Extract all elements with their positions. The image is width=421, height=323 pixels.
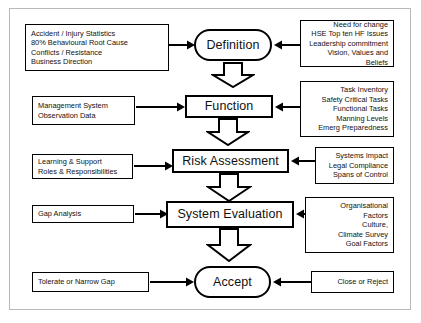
function-right-input-text: Task Inventory Safety Critical Tasks Fun…	[306, 85, 388, 132]
definition-left-input-text: Accident / Injury Statistics 80% Behavio…	[31, 29, 163, 67]
stage-accept[interactable]: Accept	[194, 266, 271, 298]
arrow-right-to-definition	[272, 39, 300, 51]
stage-system-evaluation[interactable]: System Evaluation	[166, 201, 294, 228]
stage-function-label: Function	[205, 100, 254, 113]
flow-arrow-system-evaluation-to-accept	[206, 228, 252, 262]
arrow-left-to-system-evaluation	[135, 208, 169, 220]
risk-assessment-left-input-text: Learning & Support Roles & Responsibilit…	[38, 157, 127, 176]
stage-system-evaluation-label: System Evaluation	[177, 208, 282, 221]
stage-definition[interactable]: Definition	[194, 29, 272, 61]
arrow-left-to-accept	[150, 276, 195, 288]
system-evaluation-left-input-box: Gap Analysis	[32, 205, 134, 223]
stage-accept-label: Accept	[213, 275, 252, 289]
flow-arrow-function-to-risk-assessment	[206, 118, 250, 146]
arrow-right-to-function	[273, 101, 301, 113]
accept-left-input-text: Tolerate or Narrow Gap	[38, 277, 143, 286]
flow-arrow-risk-assessment-to-system-evaluation	[206, 173, 252, 202]
system-evaluation-right-input-text: Organisational Factors Culture, Climate …	[311, 201, 388, 248]
stage-function[interactable]: Function	[185, 95, 273, 118]
definition-right-input-text: Need for change HSE Top ten HF Issues Le…	[306, 20, 388, 67]
arrow-left-to-definition	[169, 39, 196, 51]
flow-arrow-definition-to-function	[211, 62, 255, 88]
arrow-right-to-risk-assessment	[289, 155, 317, 167]
risk-assessment-right-input-box: Systems Impact Legal Compliance Spans of…	[315, 147, 394, 184]
diagram-canvas: Accident / Injury Statistics 80% Behavio…	[0, 0, 421, 323]
arrow-left-to-risk-assessment	[134, 160, 174, 172]
stage-risk-assessment[interactable]: Risk Assessment	[172, 149, 289, 173]
risk-assessment-right-input-text: Systems Impact Legal Compliance Spans of…	[321, 151, 388, 179]
system-evaluation-left-input-text: Gap Analysis	[38, 209, 128, 218]
accept-right-input-box: Close or Reject	[311, 271, 394, 293]
stage-risk-assessment-label: Risk Assessment	[182, 155, 279, 168]
system-evaluation-right-input-box: Organisational Factors Culture, Climate …	[305, 197, 394, 253]
accept-right-input-text: Close or Reject	[317, 277, 388, 286]
function-left-input-box: Management System Observation Data	[32, 96, 135, 125]
accept-left-input-box: Tolerate or Narrow Gap	[32, 272, 149, 292]
function-left-input-text: Management System Observation Data	[38, 101, 129, 120]
stage-definition-label: Definition	[206, 38, 259, 52]
risk-assessment-left-input-box: Learning & Support Roles & Responsibilit…	[32, 154, 133, 179]
function-right-input-box: Task Inventory Safety Critical Tasks Fun…	[300, 81, 394, 137]
arrow-left-to-function	[136, 101, 186, 113]
definition-left-input-box: Accident / Injury Statistics 80% Behavio…	[25, 24, 169, 71]
arrow-right-to-accept	[271, 276, 312, 288]
definition-right-input-box: Need for change HSE Top ten HF Issues Le…	[300, 20, 394, 67]
